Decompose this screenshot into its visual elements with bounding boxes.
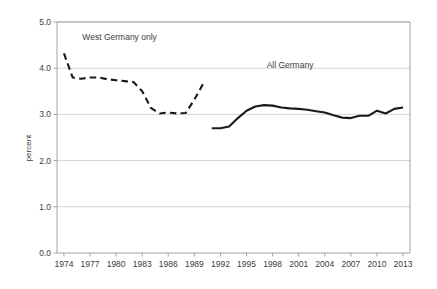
x-tick-label: 1980 [107,259,126,269]
x-tick-label: 1983 [133,259,152,269]
x-tick-label: 1992 [211,259,230,269]
plot-frame [57,22,410,253]
line-chart: 0.01.02.03.04.05.0 197419771980198319861… [0,0,437,289]
y-tick-label: 5.0 [39,17,51,27]
x-tick-label: 1995 [237,259,256,269]
y-tick-label: 3.0 [39,109,51,119]
y-tick-label: 4.0 [39,63,51,73]
x-tick-label: 1974 [54,259,73,269]
x-tick-label: 2010 [367,259,386,269]
x-tick-label: 1986 [159,259,178,269]
plot-background [57,22,410,253]
x-tick-label: 2013 [394,259,413,269]
x-tick-label: 2007 [341,259,360,269]
y-tick-label: 2.0 [39,156,51,166]
chart-container: 0.01.02.03.04.05.0 197419771980198319861… [0,0,437,289]
y-axis-title: percent [24,134,33,161]
x-tick-label: 1989 [185,259,204,269]
series-annotation-label: All Germany [267,60,315,70]
x-tick-label: 1998 [263,259,282,269]
x-tick-label: 1977 [81,259,100,269]
y-axis-ticks: 0.01.02.03.04.05.0 [39,17,57,258]
y-tick-label: 1.0 [39,202,51,212]
series-annotation-label: West Germany only [82,32,157,42]
x-tick-label: 2001 [289,259,308,269]
x-tick-label: 2004 [315,259,334,269]
x-axis-ticks: 1974197719801983198619891992199519982001… [54,253,412,269]
y-tick-label: 0.0 [39,248,51,258]
